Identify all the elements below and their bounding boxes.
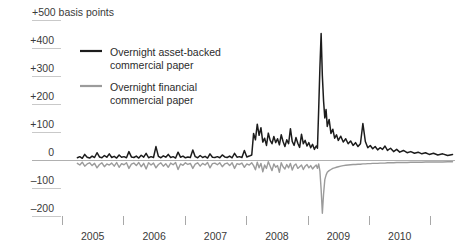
y-axis-tick-label: +300 [30,62,54,74]
legend-label-line1: Overnight asset-backed [110,46,221,58]
legend-label-line2: commercial paper [110,59,194,71]
y-axis-tick-label: –200 [31,202,55,214]
x-axis-tick-label: 2006 [142,230,166,242]
chart-root: +500 basis points+400+300+200+1000–100–2… [0,0,473,245]
x-axis-tick-label: 2005 [81,230,105,242]
y-axis-tick-label: –100 [31,174,55,186]
y-axis-tick-label: +400 [30,34,54,46]
chart-title: +500 basis points [32,6,114,18]
y-axis-tick-label: 0 [48,146,54,158]
commercial-paper-spread-chart: +500 basis points+400+300+200+1000–100–2… [0,0,473,245]
x-axis-tick-label: 2008 [265,230,289,242]
chart-background [0,0,473,245]
x-axis-tick-label: 2009 [327,230,351,242]
x-axis-tick-label: 2010 [388,230,412,242]
y-axis-tick-label: +200 [30,90,54,102]
x-axis-tick-label: 2007 [204,230,228,242]
legend-label-line2: commercial paper [110,94,194,106]
legend-label-line1: Overnight financial [110,81,197,93]
y-axis-tick-label: +100 [30,118,54,130]
